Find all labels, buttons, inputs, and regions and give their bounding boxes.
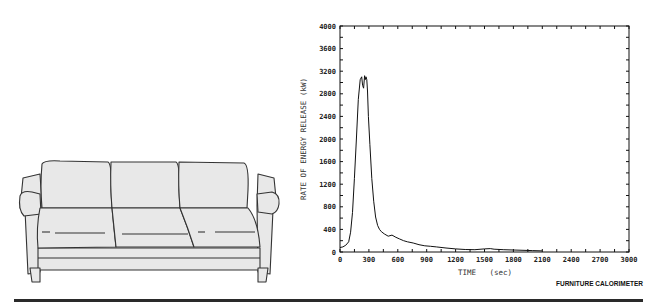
y-tick-label: 800 — [323, 203, 336, 211]
x-tick-label: 3000 — [621, 256, 638, 264]
y-tick-label: 1200 — [319, 181, 336, 189]
x-tick-label: 900 — [420, 256, 433, 264]
x-tick-label: 1500 — [476, 256, 493, 264]
y-tick-label: 2800 — [319, 90, 336, 98]
y-tick-label: 3200 — [319, 68, 336, 76]
y-tick-label: 0 — [332, 249, 336, 257]
x-tick-label: 2100 — [534, 256, 551, 264]
x-tick-label: 300 — [363, 256, 376, 264]
series-line-energy-release — [340, 76, 542, 251]
y-tick-label: 4000 — [319, 23, 336, 31]
y-axis-title: RATE OF ENERGY RELEASE (kW) — [299, 78, 308, 200]
y-tick-label: 2000 — [319, 136, 336, 144]
bottom-rule — [14, 299, 643, 302]
x-tick-label: 1800 — [505, 256, 522, 264]
furniture-calorimeter-note: FURNITURE CALORIMETER — [556, 280, 643, 287]
x-tick-label: 1200 — [447, 256, 464, 264]
y-tick-label: 3600 — [319, 45, 336, 53]
y-tick-label: 1600 — [319, 158, 336, 166]
x-tick-label: 0 — [338, 256, 342, 264]
energy-release-chart: 040080012001600200024002800320036004000 … — [0, 0, 657, 304]
plot-frame — [340, 26, 629, 252]
x-axis-title: TIME (sec) — [458, 268, 512, 277]
x-tick-label: 2700 — [592, 256, 609, 264]
x-tick-label: 600 — [391, 256, 404, 264]
x-tick-label: 2400 — [563, 256, 580, 264]
y-tick-label: 2400 — [319, 113, 336, 121]
y-tick-label: 400 — [323, 226, 336, 234]
